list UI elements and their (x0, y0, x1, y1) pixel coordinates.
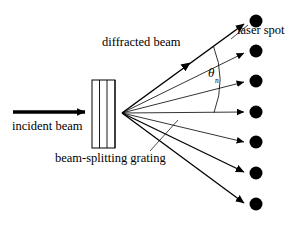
laser-spot-4 (250, 106, 263, 119)
angle-theta-label: θn (208, 66, 218, 82)
grating-label-leader-line (150, 120, 178, 151)
diffracted-beam-order-minus-1 (122, 113, 244, 142)
incident-beam-label: incident beam (12, 120, 82, 133)
laser-spot-5 (250, 136, 263, 149)
diffracted-beams-group (122, 24, 244, 203)
angle-theta-symbol: θ (208, 65, 214, 80)
laser-spots-group (250, 15, 263, 211)
diffracted-beam-order-0 (122, 112, 244, 113)
laser-spot-7 (250, 198, 263, 211)
laser-spot-3 (250, 75, 263, 88)
diffracted-beam-label: diffracted beam (102, 36, 181, 49)
laser-spot-6 (250, 167, 263, 180)
diffracted-beam-order-2 (122, 53, 244, 113)
diffraction-diagram: diffracted beam laser spot incident beam… (0, 0, 307, 230)
beam-splitting-grating-label: beam-splitting grating (55, 152, 166, 165)
grating-body (92, 80, 115, 148)
beam-splitting-grating (92, 80, 115, 148)
diffracted-beam-order-1 (122, 82, 244, 113)
angle-theta-subscript: n (215, 76, 219, 85)
laser-spot-label: laser spot (237, 24, 285, 37)
laser-spot-2 (250, 45, 263, 58)
